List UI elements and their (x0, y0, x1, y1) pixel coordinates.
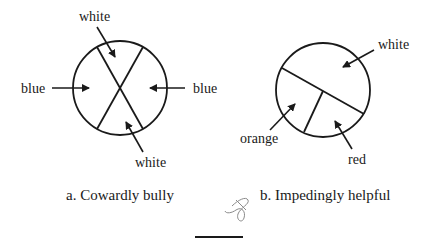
signature-scribble-icon (225, 198, 248, 221)
label-b-orange: orange (240, 132, 278, 146)
label-a-bottom-white: white (135, 156, 166, 170)
figure-b-diagram (270, 43, 374, 149)
divider-line-b (304, 91, 323, 132)
diagram-canvas (0, 0, 432, 245)
label-a-left-blue: blue (21, 82, 45, 96)
caption-b: b. Impedingly helpful (260, 188, 390, 203)
arrow-icon-bottom-white (126, 122, 143, 152)
label-a-right-blue: blue (193, 82, 217, 96)
label-b-red: red (348, 153, 366, 167)
label-a-top-white: white (79, 10, 110, 24)
arrow-icon-white (343, 50, 374, 67)
arrow-icon-orange (270, 104, 295, 130)
label-b-white: white (378, 38, 409, 52)
caption-a: a. Cowardly bully (66, 188, 174, 203)
figure-a-diagram (52, 27, 185, 152)
